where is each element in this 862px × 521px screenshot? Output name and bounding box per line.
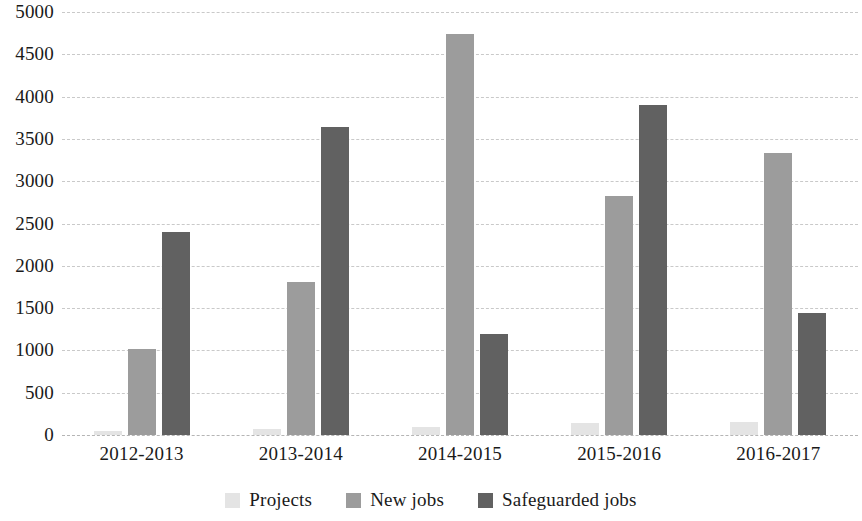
- bar: [605, 196, 633, 435]
- bar: [639, 105, 667, 435]
- bar-group: [62, 12, 221, 435]
- legend-label: New jobs: [370, 490, 444, 510]
- legend-label: Projects: [249, 490, 312, 510]
- bar-groups: [62, 12, 858, 435]
- y-axis-tick-label: 3000: [0, 171, 54, 190]
- legend-swatch-icon: [346, 493, 361, 508]
- x-axis-tick-label: 2014-2015: [380, 443, 539, 465]
- bar: [253, 429, 281, 435]
- x-axis-tick-label: 2016-2017: [699, 443, 858, 465]
- y-axis-tick-label: 4500: [0, 44, 54, 63]
- x-axis-tick-label: 2013-2014: [221, 443, 380, 465]
- y-axis-tick-label: 2000: [0, 256, 54, 275]
- legend-item[interactable]: Safeguarded jobs: [478, 490, 637, 510]
- y-axis-tick-label: 5000: [0, 2, 54, 21]
- bar: [446, 34, 474, 435]
- legend-swatch-icon: [478, 493, 493, 508]
- axis-baseline: [62, 435, 858, 436]
- legend-label: Safeguarded jobs: [502, 490, 637, 510]
- bar-group: [540, 12, 699, 435]
- chart-legend: ProjectsNew jobsSafeguarded jobs: [0, 490, 862, 510]
- bar: [128, 349, 156, 435]
- legend-item[interactable]: New jobs: [346, 490, 444, 510]
- bar: [798, 313, 826, 435]
- x-axis-tick-label: 2015-2016: [540, 443, 699, 465]
- legend-swatch-icon: [225, 493, 240, 508]
- x-axis-labels: 2012-20132013-20142014-20152015-20162016…: [62, 443, 858, 465]
- bar: [412, 427, 440, 435]
- y-axis-tick-label: 4000: [0, 87, 54, 106]
- bar: [94, 431, 122, 435]
- y-axis-labels: 5000450040003500300025002000150010005000: [0, 12, 54, 435]
- bar-group: [380, 12, 539, 435]
- bar: [321, 127, 349, 435]
- x-axis-tick-label: 2012-2013: [62, 443, 221, 465]
- y-axis-tick-label: 2500: [0, 214, 54, 233]
- bar-group: [221, 12, 380, 435]
- y-axis-tick-label: 1000: [0, 340, 54, 359]
- legend-item[interactable]: Projects: [225, 490, 312, 510]
- y-axis-tick-label: 1500: [0, 298, 54, 317]
- y-axis-tick-label: 0: [0, 425, 54, 444]
- bar-chart: 5000450040003500300025002000150010005000…: [0, 0, 862, 521]
- y-axis-tick-label: 3500: [0, 129, 54, 148]
- bar: [480, 334, 508, 435]
- bar-group: [699, 12, 858, 435]
- bar: [287, 282, 315, 435]
- bar: [162, 232, 190, 435]
- bar: [764, 153, 792, 435]
- y-axis-tick-label: 500: [0, 383, 54, 402]
- bar: [730, 422, 758, 435]
- bar: [571, 423, 599, 435]
